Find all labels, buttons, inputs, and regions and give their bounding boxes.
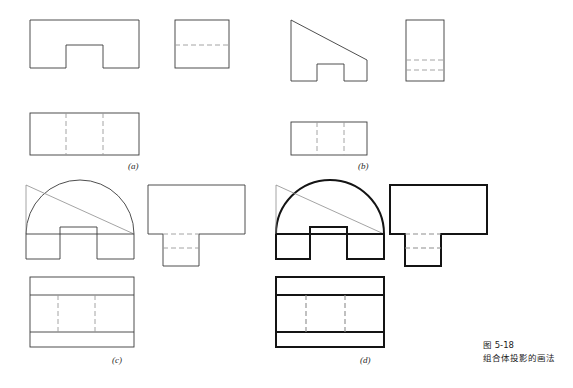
figure-number: 图 5-18 (483, 339, 571, 352)
front-view-outline (291, 20, 367, 81)
engineering-drawing-figure (0, 0, 573, 388)
panel-c (26, 180, 245, 347)
panel-b-top-view (291, 122, 367, 155)
panel-a-top-view (30, 113, 139, 155)
panel-a-front-view (30, 20, 139, 68)
top-view-outline (276, 277, 384, 347)
panel-c-front-view (26, 180, 134, 259)
right-view-outline (406, 20, 444, 81)
top-view-outline (291, 122, 367, 155)
panel-b-front-view (291, 20, 367, 81)
right-view-outline (148, 185, 245, 266)
front-view-dome-arc (276, 180, 384, 234)
front-view-dome-arc (26, 180, 134, 234)
panel-a-right-view (175, 20, 229, 68)
panel-label-a: (a) (128, 161, 139, 171)
top-view-outline (30, 277, 134, 347)
front-view-base-outline (276, 227, 384, 259)
panel-c-right-view (148, 185, 245, 266)
panel-d-right-view (390, 185, 487, 266)
panel-d-top-view (276, 277, 384, 347)
top-view-outline (30, 113, 139, 155)
panel-label-b: (b) (358, 161, 369, 171)
front-view-base-outline (26, 227, 134, 259)
panel-b-right-view (406, 20, 444, 81)
panel-c-top-view (30, 277, 134, 347)
panel-b (291, 20, 444, 155)
figure-title: 组合体投影的画法 (483, 352, 571, 365)
panel-label-c: (c) (112, 355, 122, 365)
panel-a (30, 20, 229, 155)
figure-caption: 图 5-18 组合体投影的画法 (483, 339, 571, 365)
right-view-outline (175, 20, 229, 68)
right-view-outline (390, 185, 487, 266)
panel-label-d: (d) (360, 355, 371, 365)
panel-d-front-view (276, 180, 384, 259)
front-view-outline (30, 20, 139, 68)
panel-d (276, 180, 487, 347)
